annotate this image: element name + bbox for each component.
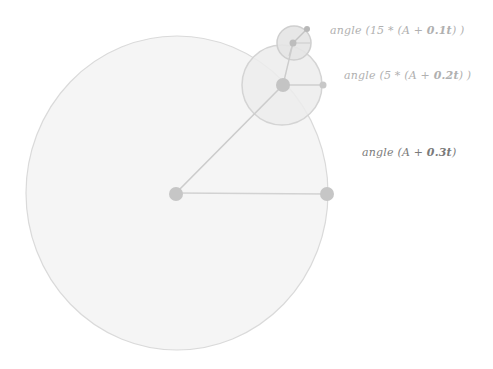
medium-edge-dot	[320, 82, 327, 89]
epicycle-diagram: angle (15 * (A + 0.1t) ) angle (5 * (A +…	[0, 0, 493, 369]
small-circle-label: angle (15 * (A + 0.1t) )	[330, 24, 465, 37]
label-bold-term: 0.2t	[434, 69, 459, 82]
large-radius-horizontal	[176, 193, 327, 194]
medium-circle-label: angle (5 * (A + 0.2t) )	[344, 69, 471, 82]
label-suffix: ) )	[459, 69, 472, 82]
large-circle-label: angle (A + 0.3t)	[362, 146, 456, 159]
label-bold-term: 0.1t	[427, 24, 452, 37]
label-suffix: ) )	[452, 24, 465, 37]
medium-center-dot	[276, 78, 290, 92]
label-text: angle (5 * (A +	[344, 69, 434, 82]
large-center-dot	[169, 187, 183, 201]
label-bold-term: 0.3t	[427, 146, 452, 159]
label-suffix: )	[452, 146, 457, 159]
small-edge-dot	[304, 26, 310, 32]
label-text: angle (15 * (A +	[330, 24, 427, 37]
small-center-dot	[290, 40, 297, 47]
diagram-canvas	[0, 0, 493, 369]
label-text: angle (A +	[362, 146, 427, 159]
large-edge-dot	[320, 187, 334, 201]
